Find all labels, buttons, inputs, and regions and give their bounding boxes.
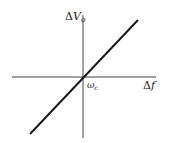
origin-label: ωc bbox=[87, 81, 98, 91]
x-var: f bbox=[151, 79, 155, 92]
y-var: V bbox=[73, 10, 81, 23]
y-axis-label: ΔVo bbox=[65, 11, 86, 24]
y-subscript: o bbox=[81, 15, 86, 24]
delta-symbol: Δ bbox=[65, 10, 73, 23]
origin-subscript: c bbox=[94, 84, 98, 91]
x-axis-label: Δf bbox=[143, 80, 155, 91]
delta-symbol: Δ bbox=[143, 79, 151, 92]
